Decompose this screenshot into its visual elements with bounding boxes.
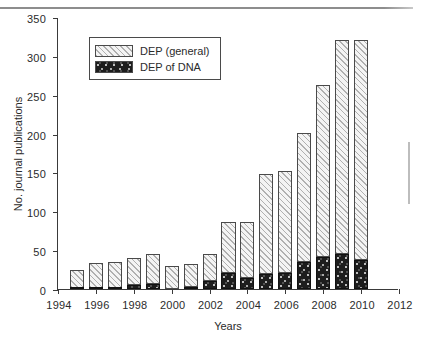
- bar-segment-dep-general: [108, 262, 122, 288]
- bar-1998: [127, 258, 141, 289]
- bar-segment-dep-general: [89, 263, 103, 288]
- bar-segment-dep-general: [297, 133, 311, 262]
- bar-segment-dep-of-dna: [259, 274, 273, 289]
- bar-segment-dep-of-dna: [89, 287, 103, 289]
- bar-1999: [146, 254, 160, 289]
- bar-2000: [165, 266, 179, 289]
- y-tick: 150: [53, 173, 58, 174]
- bar-2007: [297, 133, 311, 289]
- bar-1997: [108, 262, 122, 289]
- bar-segment-dep-of-dna: [297, 262, 311, 289]
- bar-chart: No. journal publications Years 050100150…: [0, 0, 421, 343]
- bar-segment-dep-general: [146, 254, 160, 284]
- y-tick: 350: [53, 18, 58, 19]
- y-tick-label: 50: [33, 246, 46, 258]
- x-tick-label: 1996: [84, 299, 109, 311]
- x-tick-label: 2008: [312, 299, 337, 311]
- x-tick-label: 1994: [46, 299, 71, 311]
- y-tick: 200: [53, 135, 58, 136]
- bar-segment-dep-of-dna: [278, 273, 292, 289]
- bar-segment-dep-of-dna: [108, 287, 122, 289]
- y-tick: 300: [53, 57, 58, 58]
- bar-2008: [316, 85, 330, 289]
- x-tick-label: 2012: [387, 299, 412, 311]
- bar-segment-dep-general: [203, 254, 217, 281]
- bar-segment-dep-general: [184, 264, 198, 287]
- bar-segment-dep-of-dna: [184, 287, 198, 289]
- bar-segment-dep-general: [240, 222, 254, 278]
- x-tick-label: 2006: [274, 299, 299, 311]
- x-tick: 2000: [172, 289, 173, 294]
- bar-segment-dep-of-dna: [70, 287, 84, 289]
- y-tick-label: 200: [27, 130, 46, 142]
- x-axis-title: Years: [214, 320, 242, 332]
- legend-item-dep-of-dna: DEP of DNA: [95, 59, 215, 74]
- bar-2003: [221, 222, 235, 289]
- bar-segment-dep-of-dna: [354, 260, 368, 289]
- y-tick: 250: [53, 96, 58, 97]
- bar-2010: [354, 40, 368, 289]
- y-axis-title: No. journal publications: [12, 97, 24, 211]
- bar-segment-dep-of-dna: [316, 257, 330, 289]
- y-tick-label: 100: [27, 207, 46, 219]
- x-tick-label: 2004: [236, 299, 261, 311]
- legend-label-dep-of-dna: DEP of DNA: [140, 61, 201, 73]
- bar-2001: [184, 264, 198, 289]
- x-tick-label: 2000: [160, 299, 185, 311]
- x-tick-label: 1998: [122, 299, 147, 311]
- bar-segment-dep-general: [221, 222, 235, 273]
- x-tick: 2002: [210, 289, 211, 294]
- bar-2005: [259, 174, 273, 289]
- y-tick-label: 300: [27, 52, 46, 64]
- legend: DEP (general) DEP of DNA: [89, 37, 221, 80]
- bar-segment-dep-of-dna: [221, 273, 235, 289]
- bar-segment-dep-general: [259, 174, 273, 274]
- y-tick-label: 150: [27, 168, 46, 180]
- x-tick: 2010: [361, 289, 362, 294]
- legend-label-dep-general: DEP (general): [140, 45, 210, 57]
- bar-segment-dep-of-dna: [240, 278, 254, 289]
- y-tick-label: 350: [27, 13, 46, 25]
- x-tick: 1996: [96, 289, 97, 294]
- bar-segment-dep-general: [165, 266, 179, 289]
- bar-1995: [70, 270, 84, 289]
- bar-segment-dep-of-dna: [335, 254, 349, 289]
- legend-swatch-dep-general: [95, 45, 133, 57]
- figure-root: No. journal publications Years 050100150…: [0, 0, 421, 343]
- legend-swatch-dep-of-dna: [95, 61, 133, 73]
- bar-1996: [89, 263, 103, 289]
- x-tick: 1994: [58, 289, 59, 294]
- bar-2002: [203, 254, 217, 289]
- x-tick-label: 2010: [349, 299, 374, 311]
- y-tick-label: 0: [40, 285, 46, 297]
- bar-segment-dep-of-dna: [203, 281, 217, 289]
- bar-segment-dep-general: [127, 258, 141, 285]
- bar-2004: [240, 222, 254, 289]
- x-tick: 2006: [285, 289, 286, 294]
- bar-segment-dep-general: [70, 270, 84, 288]
- bar-segment-dep-general: [354, 40, 368, 261]
- bar-segment-dep-general: [335, 40, 349, 254]
- y-tick: 100: [53, 212, 58, 213]
- bar-segment-dep-general: [278, 171, 292, 274]
- y-tick: 50: [53, 251, 58, 252]
- x-tick: 2004: [247, 289, 248, 294]
- x-tick: 1998: [134, 289, 135, 294]
- x-tick: 2008: [323, 289, 324, 294]
- legend-item-dep-general: DEP (general): [95, 43, 215, 58]
- bar-segment-dep-of-dna: [146, 284, 160, 289]
- bar-segment-dep-general: [316, 85, 330, 258]
- bar-segment-dep-of-dna: [127, 285, 141, 289]
- x-tick: 2012: [399, 289, 400, 294]
- bar-2006: [278, 171, 292, 289]
- x-tick-label: 2002: [198, 299, 223, 311]
- bar-2009: [335, 40, 349, 289]
- y-tick-label: 250: [27, 91, 46, 103]
